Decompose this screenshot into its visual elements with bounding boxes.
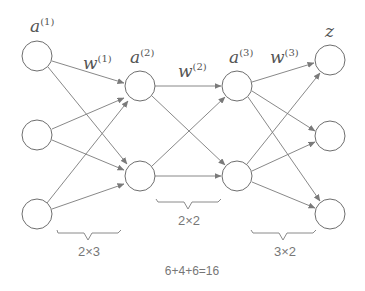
brace-2x3 bbox=[57, 230, 121, 240]
layer-3-label: a(3) bbox=[229, 47, 253, 67]
node bbox=[315, 121, 345, 151]
layer-2-nodes bbox=[125, 71, 155, 191]
edges-layer2-layer3 bbox=[152, 86, 225, 176]
edges-layer1-layer2 bbox=[47, 61, 128, 209]
layer-3-nodes bbox=[222, 71, 252, 191]
node bbox=[315, 45, 345, 75]
layer-1-nodes bbox=[22, 41, 52, 229]
dim-label-2x3: 2×3 bbox=[78, 244, 100, 259]
weight-2-label: w(2) bbox=[178, 61, 207, 81]
dim-label-3x2: 3×2 bbox=[274, 244, 296, 259]
node bbox=[222, 161, 252, 191]
weight-3-label: w(3) bbox=[270, 47, 299, 67]
node bbox=[22, 199, 52, 229]
node bbox=[222, 71, 252, 101]
edges-layer3-layer4 bbox=[247, 63, 320, 208]
layer-4-nodes bbox=[315, 45, 345, 229]
neural-network-diagram: a(1) a(2) a(3) z w(1) w(2) w(3) 2×3 2×2 … bbox=[0, 0, 365, 291]
brace-2x2 bbox=[156, 199, 221, 209]
node bbox=[315, 199, 345, 229]
brace-3x2 bbox=[251, 230, 316, 240]
weight-1-label: w(1) bbox=[83, 53, 112, 73]
node bbox=[125, 161, 155, 191]
layer-2-label: a(2) bbox=[130, 47, 154, 67]
total-params-label: 6+4+6=16 bbox=[165, 264, 220, 278]
dim-label-2x2: 2×2 bbox=[178, 213, 200, 228]
layer-4-label: z bbox=[324, 21, 335, 41]
node bbox=[22, 120, 52, 150]
node bbox=[125, 71, 155, 101]
layer-1-label: a(1) bbox=[30, 16, 54, 36]
node bbox=[22, 41, 52, 71]
